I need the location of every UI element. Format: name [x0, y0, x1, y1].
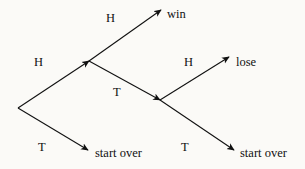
outcome-win: win	[167, 8, 186, 21]
edge-node2-t	[160, 100, 234, 150]
edge-label-root-h: H	[34, 56, 43, 69]
edge-label-node2-t: T	[181, 141, 189, 154]
edge-node2-h	[160, 57, 229, 100]
edge-node1-h	[89, 10, 161, 61]
edge-label-node1-t: T	[113, 86, 121, 99]
outcome-start-over-1: start over	[95, 147, 142, 160]
probability-tree-diagram: H T H T H T win lose start over start ov…	[0, 0, 305, 169]
edge-root-t	[18, 108, 88, 150]
edge-label-node2-h: H	[184, 56, 193, 69]
outcome-lose: lose	[236, 56, 256, 69]
edge-label-node1-h: H	[106, 12, 115, 25]
edge-root-h	[18, 61, 89, 108]
edge-label-root-t: T	[38, 141, 46, 154]
edge-node1-t	[89, 61, 160, 100]
outcome-start-over-2: start over	[240, 147, 287, 160]
